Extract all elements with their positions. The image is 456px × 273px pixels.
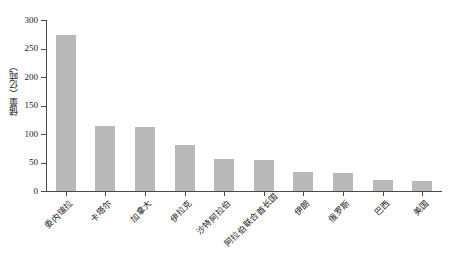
x-axis-tick (224, 192, 225, 196)
x-axis-tick (303, 192, 304, 196)
x-axis-tick (185, 192, 186, 196)
bars-layer (46, 20, 442, 191)
y-axis-tick (41, 191, 46, 192)
x-axis-tick (383, 192, 384, 196)
x-axis-tick (105, 192, 106, 196)
bar (293, 172, 313, 191)
bar (254, 160, 274, 191)
y-axis-tick-label: 0 (6, 187, 38, 196)
bar (373, 180, 393, 191)
bar (135, 127, 155, 191)
x-axis-tick (145, 192, 146, 196)
y-axis-tick-label: 300 (6, 16, 38, 25)
bar (214, 159, 234, 191)
x-axis-tick (422, 192, 423, 196)
bar (175, 145, 195, 191)
bar-chart: 储量（亿吨） 050100150200250300 委内瑞拉卡塔尔加拿大伊拉克沙… (0, 0, 456, 273)
y-axis-tick-label: 150 (6, 101, 38, 110)
x-axis-tick (343, 192, 344, 196)
bar (95, 126, 115, 191)
y-axis-tick-label: 50 (6, 158, 38, 167)
x-axis-tick (66, 192, 67, 196)
x-axis-tick (264, 192, 265, 196)
y-axis-tick-label: 200 (6, 73, 38, 82)
bar (333, 173, 353, 191)
bar (56, 35, 76, 191)
y-axis-tick-label: 100 (6, 130, 38, 139)
y-axis-tick-label: 250 (6, 44, 38, 53)
bar (412, 181, 432, 191)
